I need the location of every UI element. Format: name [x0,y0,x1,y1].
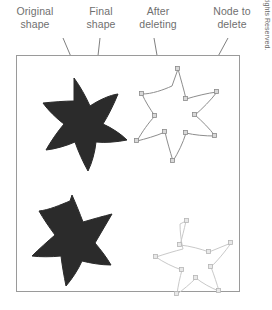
node-handle[interactable] [193,113,197,117]
node-handle[interactable] [178,243,182,247]
node-handle[interactable] [194,276,198,280]
diagram-canvas [0,0,272,310]
node-handle[interactable] [213,134,217,138]
node-handle[interactable] [163,130,167,134]
node-delete-diagram: Original shape Final shape After deletin… [0,0,272,310]
node-handle[interactable] [140,92,144,96]
node-handle[interactable] [154,255,158,259]
source-credit: Source: Corel® Corporation. ©2013 Cengag… [261,0,272,48]
node-handle[interactable] [207,250,211,254]
node-handle[interactable] [175,292,179,296]
node-handle[interactable] [153,114,157,118]
node-handle[interactable] [180,268,184,272]
node-handle[interactable] [185,219,189,223]
node-handle[interactable] [135,139,139,143]
node-handle[interactable] [171,159,175,163]
node-handle[interactable] [184,97,188,101]
node-handle-delete-target[interactable] [184,131,188,135]
node-handle[interactable] [215,90,219,94]
node-handle[interactable] [229,241,233,245]
node-handle[interactable] [217,289,221,293]
node-handle[interactable] [209,265,213,269]
node-handle[interactable] [176,67,180,71]
